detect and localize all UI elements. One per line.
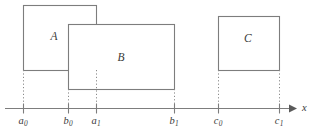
rectangle-label-c: C (244, 33, 252, 45)
rectangle-label-a: A (50, 31, 57, 43)
tick-label-a0: a0 (19, 116, 28, 127)
tick-label-b0: b0 (64, 116, 73, 127)
tick-label-c1: c1 (275, 116, 283, 127)
rectangle-layer (24, 6, 280, 90)
figure-canvas (0, 0, 314, 138)
tick-label-b1: b1 (170, 116, 179, 127)
axis-layer (5, 105, 297, 113)
interval-overlap-figure: ABCa0b0a1b1c0c1x (0, 0, 314, 138)
rectangle-label-b: B (117, 52, 124, 64)
tick-label-a1: a1 (92, 116, 101, 127)
x-axis-label: x (302, 103, 307, 114)
tick-label-c0: c0 (214, 116, 222, 127)
axis-arrow-icon (289, 105, 297, 113)
